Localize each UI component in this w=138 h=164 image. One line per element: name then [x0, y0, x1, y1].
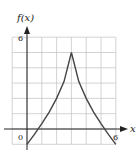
x-axis-arrow-icon [120, 126, 128, 132]
x-max-label: 6 [113, 133, 118, 142]
function-graph: f(x) x 0 6 6 [0, 0, 138, 164]
y-max-label: 6 [18, 34, 23, 43]
y-axis-arrow-icon [24, 26, 30, 34]
x-axis-label: x [130, 123, 136, 134]
y-axis [24, 26, 30, 150]
origin-label: 0 [18, 133, 23, 142]
x-axis [4, 126, 128, 132]
y-axis-label: f(x) [16, 12, 34, 23]
grid [12, 37, 116, 144]
